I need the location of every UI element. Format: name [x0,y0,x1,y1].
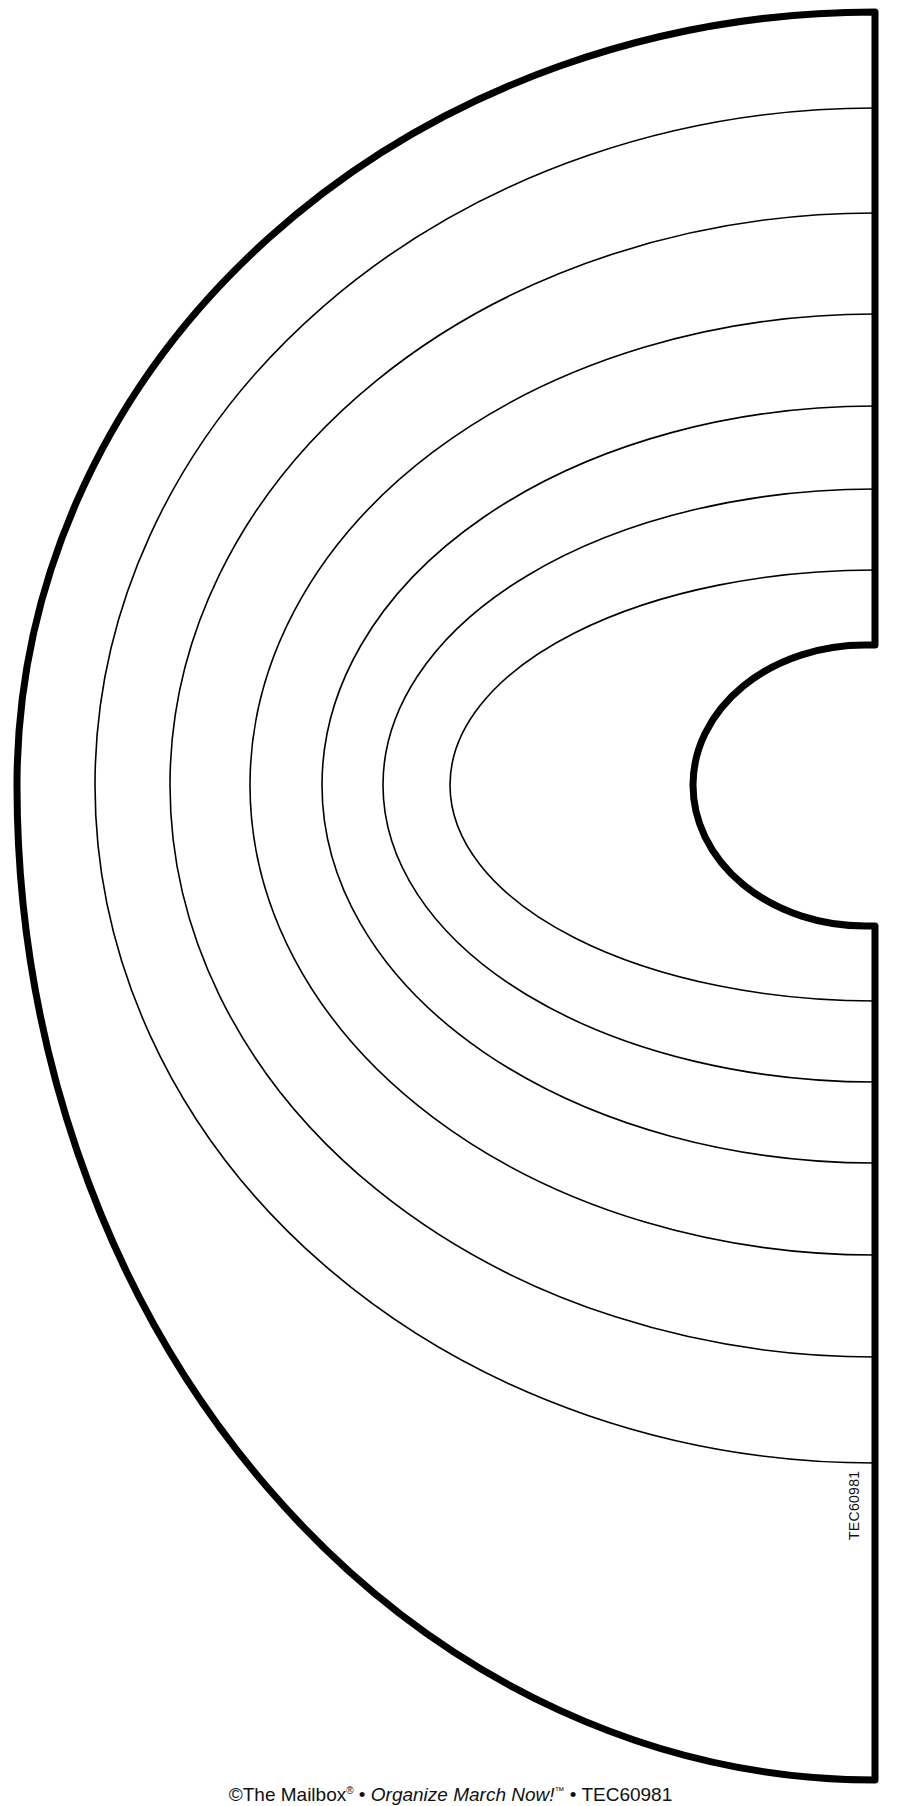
product-code-vertical: TEC60981 [846,1430,864,1540]
rainbow-band-line [450,570,875,1001]
trademark-mark: ™ [555,1785,565,1796]
rainbow-band-line [383,489,875,1082]
footer-separator: • [354,1784,371,1805]
rainbow-band-lines [95,108,875,1463]
registered-mark: ® [346,1785,353,1796]
rainbow-band-line [250,314,875,1255]
rainbow-band-line [95,108,875,1463]
rainbow-band-line [322,406,875,1163]
footer-separator-2: • [565,1784,582,1805]
footer-publisher: ©The Mailbox [229,1784,347,1805]
copyright-footer: ©The Mailbox® • Organize March Now!™ • T… [0,1784,901,1806]
footer-series-title: Organize March Now! [371,1784,555,1805]
footer-code: TEC60981 [581,1784,672,1805]
rainbow-band-line [170,213,875,1357]
rainbow-outer-border [17,12,875,1780]
